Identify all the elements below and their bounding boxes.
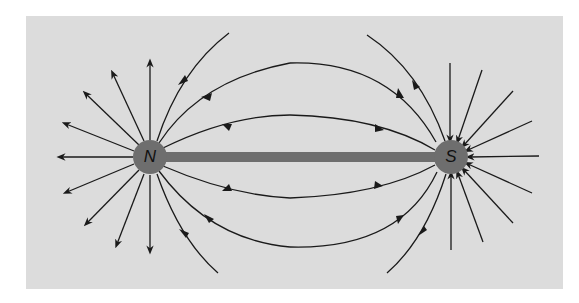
north-pole-label: N <box>133 140 167 174</box>
magnet-bar <box>160 152 442 162</box>
magnetic-field-diagram <box>0 0 579 303</box>
south-pole-label: S <box>434 140 468 174</box>
